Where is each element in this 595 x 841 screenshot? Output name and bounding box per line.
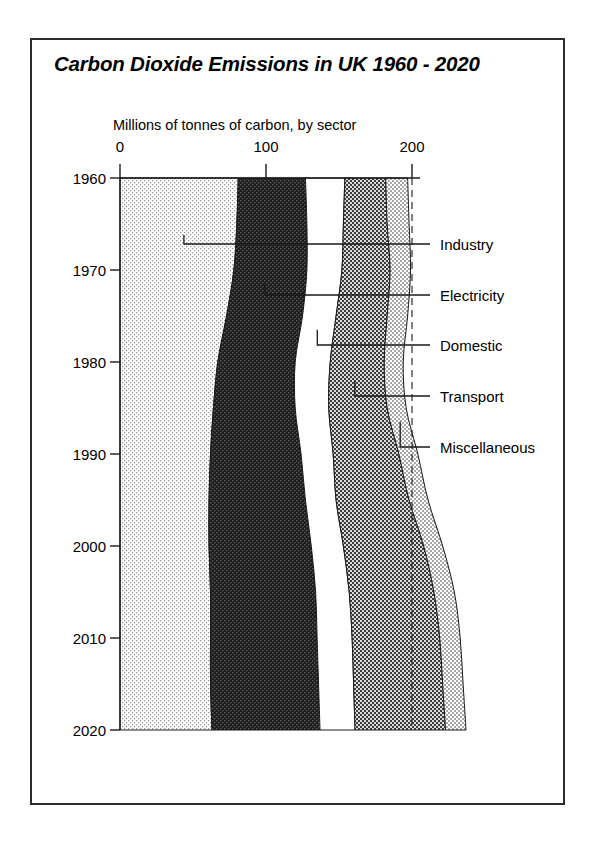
y-tick-label-2000: 2000 [54, 538, 106, 555]
y-tick-label-1990: 1990 [54, 446, 106, 463]
x-tick-label-200: 200 [399, 138, 424, 155]
y-tick-label-2010: 2010 [54, 630, 106, 647]
y-tick-label-2020: 2020 [54, 722, 106, 739]
legend-label-miscellaneous: Miscellaneous [440, 439, 535, 456]
legend-label-transport: Transport [440, 388, 504, 405]
chart-plot-area: 0100200 1960197019801990200020102020 Ind… [0, 0, 595, 841]
x-tick-label-0: 0 [116, 138, 124, 155]
legend-label-domestic: Domestic [440, 337, 503, 354]
x-tick-label-100: 100 [253, 138, 278, 155]
legend-label-industry: Industry [440, 236, 493, 253]
stacked-area-bands [0, 0, 595, 841]
y-tick-label-1960: 1960 [54, 170, 106, 187]
y-tick-label-1970: 1970 [54, 262, 106, 279]
y-tick-label-1980: 1980 [54, 354, 106, 371]
legend-label-electricity: Electricity [440, 287, 504, 304]
